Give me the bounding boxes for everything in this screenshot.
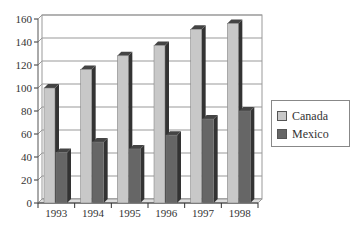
legend-swatch-mexico — [277, 129, 287, 139]
y-tick-label: 40 — [21, 151, 33, 163]
y-tick-label: 100 — [16, 82, 33, 94]
y-tick-label: 140 — [16, 36, 33, 48]
y-tick-label: 20 — [21, 174, 33, 186]
x-tick-label: 1997 — [192, 207, 215, 219]
legend-item-canada: Canada — [277, 109, 328, 123]
y-tick-label: 80 — [21, 105, 33, 117]
x-tick-label: 1996 — [155, 207, 178, 219]
bar-mexico-1994 — [93, 138, 108, 203]
bar-mexico-1993 — [56, 148, 71, 203]
legend-swatch-canada — [277, 111, 287, 121]
legend-item-mexico: Mexico — [277, 127, 329, 141]
bar-mexico-1998 — [239, 107, 254, 203]
y-tick-label: 60 — [21, 128, 33, 140]
legend-label-mexico: Mexico — [292, 127, 329, 142]
chart-legend: Canada Mexico — [271, 100, 350, 147]
y-tick-label: 0 — [27, 197, 33, 209]
legend-label-canada: Canada — [292, 109, 328, 124]
y-tick-label: 120 — [16, 59, 33, 71]
x-tick-label: 1998 — [229, 207, 252, 219]
bar-mexico-1997 — [203, 115, 218, 203]
y-tick-label: 160 — [16, 13, 33, 25]
bar-mexico-1995 — [129, 145, 144, 203]
x-tick-label: 1994 — [82, 207, 105, 219]
bar-mexico-1996 — [166, 131, 181, 203]
x-tick-label: 1995 — [119, 207, 142, 219]
x-tick-label: 1993 — [45, 207, 68, 219]
